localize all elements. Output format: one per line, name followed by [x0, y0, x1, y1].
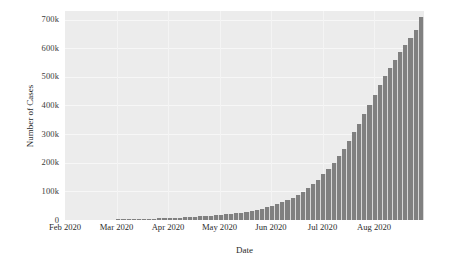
y-axis-tick-label: 300k — [0, 130, 59, 139]
bar-series — [65, 11, 424, 220]
chart-figure: Number of Cases 700k600k500k400k300k200k… — [0, 0, 450, 267]
x-axis-tick-label: Jul 2020 — [308, 223, 337, 232]
bar — [419, 17, 424, 220]
y-axis-tick-label: 500k — [0, 72, 59, 81]
y-axis-tick-label: 100k — [0, 187, 59, 196]
y-axis-tick-label: 200k — [0, 158, 59, 167]
y-axis-tick-label: 700k — [0, 15, 59, 24]
x-axis-tick-label: May 2020 — [202, 223, 237, 232]
x-axis-tick-label: Feb 2020 — [49, 223, 81, 232]
x-axis-tick-label: Aug 2020 — [357, 223, 391, 232]
x-axis-tick-label: Mar 2020 — [100, 223, 134, 232]
x-axis-title: Date — [65, 245, 424, 255]
y-axis-tick-label: 600k — [0, 44, 59, 53]
y-axis-tick-label: 400k — [0, 101, 59, 110]
x-axis-tick-label: Jun 2020 — [255, 223, 286, 232]
plot-area — [65, 11, 424, 220]
x-axis-tick-label: Apr 2020 — [152, 223, 185, 232]
